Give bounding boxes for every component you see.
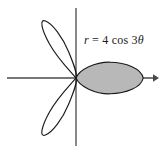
equation-theta-symbol: θ	[138, 33, 144, 47]
rose-petal-right-shaded	[76, 62, 143, 94]
rose-petal-upper-left	[42, 21, 77, 78]
x-axis-arrowhead	[153, 74, 159, 82]
equation-label: r = 4 cos 3θ	[84, 33, 144, 47]
polar-rose-figure: r = 4 cos 3θ	[0, 0, 167, 152]
equation-function: cos	[108, 33, 131, 47]
rose-curve-plot	[0, 0, 167, 152]
rose-petal-lower-left	[42, 78, 77, 135]
equation-equals: =	[89, 33, 102, 47]
